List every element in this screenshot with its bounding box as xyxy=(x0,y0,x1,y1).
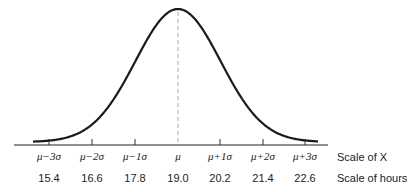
label-hours-1: 16.6 xyxy=(70,172,114,184)
label-hours-5: 21.4 xyxy=(241,172,285,184)
label-hours-4: 20.2 xyxy=(198,172,242,184)
label-mu-minus-2sigma: μ−2σ xyxy=(70,150,114,162)
normal-curve xyxy=(33,9,318,142)
scale-of-x-label: Scale of X xyxy=(337,151,387,163)
label-mu-plus-1sigma: μ+1σ xyxy=(198,150,242,162)
scale-of-hours-label: Scale of hours xyxy=(337,172,407,184)
bell-curve-plot xyxy=(0,0,409,192)
label-hours-6: 22.6 xyxy=(283,172,327,184)
label-mu-minus-3sigma: μ−3σ xyxy=(27,150,71,162)
label-hours-3: 19.0 xyxy=(156,172,200,184)
label-hours-0: 15.4 xyxy=(27,172,71,184)
label-hours-2: 17.8 xyxy=(113,172,157,184)
label-mu: μ xyxy=(156,150,200,162)
tick-marks xyxy=(49,139,305,145)
label-mu-minus-1sigma: μ−1σ xyxy=(113,150,157,162)
label-mu-plus-2sigma: μ+2σ xyxy=(241,150,285,162)
label-mu-plus-3sigma: μ+3σ xyxy=(283,150,327,162)
